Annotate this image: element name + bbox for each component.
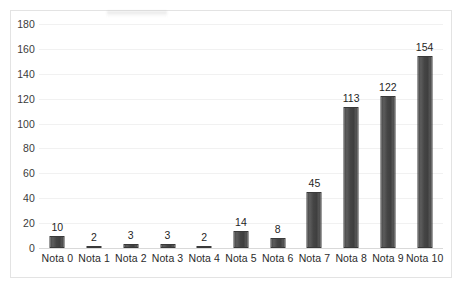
bar-value-label: 45 — [308, 177, 320, 189]
axis-baseline — [39, 248, 443, 249]
bar-slot: 8 — [259, 24, 296, 248]
bar[interactable] — [270, 238, 285, 248]
bar[interactable] — [233, 231, 248, 248]
bar[interactable] — [307, 192, 322, 248]
bar-value-label: 122 — [379, 81, 397, 93]
bar[interactable] — [87, 246, 102, 249]
bar[interactable] — [123, 244, 138, 248]
y-axis-tick-label: 180 — [1, 18, 35, 30]
y-axis-tick-label: 20 — [1, 217, 35, 229]
y-axis-tick-label: 160 — [1, 43, 35, 55]
bar[interactable] — [50, 236, 65, 248]
bar-slot: 3 — [112, 24, 149, 248]
plot-area: 10233214845113122154 — [39, 24, 443, 248]
bar-slot: 154 — [406, 24, 443, 248]
y-axis-tick-label: 100 — [1, 118, 35, 130]
bar-value-label: 113 — [343, 92, 360, 104]
y-axis-tick-label: 60 — [1, 167, 35, 179]
bar-slot: 2 — [76, 24, 113, 248]
bar[interactable] — [160, 244, 175, 248]
y-axis-tick-label: 80 — [1, 142, 35, 154]
bar-value-label: 3 — [128, 229, 134, 241]
bar-slot: 14 — [223, 24, 260, 248]
chart-title-remnant — [107, 11, 167, 17]
bar-slot: 113 — [333, 24, 370, 248]
y-axis-tick-label: 140 — [1, 68, 35, 80]
bar[interactable] — [417, 56, 432, 248]
y-axis-tick-label: 40 — [1, 192, 35, 204]
y-axis-tick-label: 120 — [1, 93, 35, 105]
bar-value-label: 14 — [235, 216, 247, 228]
y-axis: 180160140120100806040200 — [0, 24, 35, 248]
x-axis-tick-label: Nota 10 — [402, 252, 448, 264]
bar-value-label: 10 — [51, 221, 63, 233]
bar-value-label: 2 — [201, 231, 207, 243]
x-axis: Nota 0Nota 1Nota 2Nota 3Nota 4Nota 5Nota… — [39, 252, 443, 272]
bar-slot: 2 — [186, 24, 223, 248]
bar[interactable] — [380, 96, 395, 248]
bar-value-label: 2 — [91, 231, 97, 243]
y-axis-tick-label: 0 — [1, 242, 35, 254]
bar-slot: 3 — [149, 24, 186, 248]
bar-value-label: 154 — [416, 41, 434, 53]
bar-slot: 10 — [39, 24, 76, 248]
bar-value-label: 8 — [275, 223, 281, 235]
bar-slot: 45 — [296, 24, 333, 248]
bar[interactable] — [344, 107, 359, 248]
bar-value-label: 3 — [165, 229, 171, 241]
bar[interactable] — [197, 246, 212, 249]
bar-slot: 122 — [370, 24, 407, 248]
